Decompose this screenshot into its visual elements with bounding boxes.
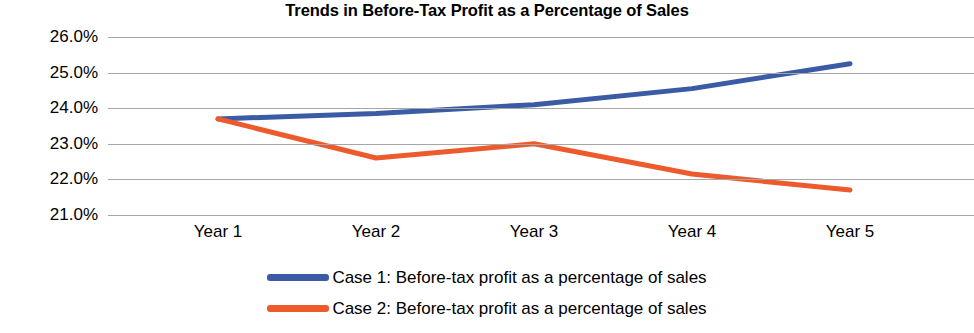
x-axis-tick-label: Year 2	[296, 222, 456, 242]
gridline	[108, 179, 974, 180]
x-axis-tick-label: Year 3	[454, 222, 614, 242]
series-svg	[108, 37, 974, 215]
plot-area	[108, 37, 974, 215]
gridline	[108, 73, 974, 74]
y-axis-tick-label: 22.0%	[2, 170, 98, 187]
gridline	[108, 37, 974, 38]
y-axis-tick-label: 26.0%	[2, 28, 98, 45]
y-axis-tick-label: 24.0%	[2, 99, 98, 116]
gridline	[108, 215, 974, 216]
chart-legend: Case 1: Before-tax profit as a percentag…	[0, 262, 974, 324]
x-axis-tick-label: Year 4	[612, 222, 772, 242]
chart-title: Trends in Before-Tax Profit as a Percent…	[0, 1, 974, 20]
y-axis-tick-label: 21.0%	[2, 206, 98, 223]
x-axis-tick-label: Year 5	[770, 222, 930, 242]
legend-item-label: Case 2: Before-tax profit as a percentag…	[332, 299, 706, 318]
gridline	[108, 144, 974, 145]
gridline	[108, 108, 974, 109]
x-axis: Year 1Year 2Year 3Year 4Year 5	[108, 222, 974, 248]
x-axis-tick-label: Year 1	[138, 222, 298, 242]
y-axis-tick-label: 25.0%	[2, 64, 98, 81]
legend-item-label: Case 1: Before-tax profit as a percentag…	[332, 268, 706, 287]
legend-item[interactable]: Case 2: Before-tax profit as a percentag…	[0, 293, 974, 324]
line-chart: Trends in Before-Tax Profit as a Percent…	[0, 0, 974, 333]
legend-item[interactable]: Case 1: Before-tax profit as a percentag…	[0, 262, 974, 293]
y-axis-tick-label: 23.0%	[2, 135, 98, 152]
legend-line-swatch-icon	[267, 274, 329, 281]
legend-line-swatch-icon	[267, 305, 329, 312]
